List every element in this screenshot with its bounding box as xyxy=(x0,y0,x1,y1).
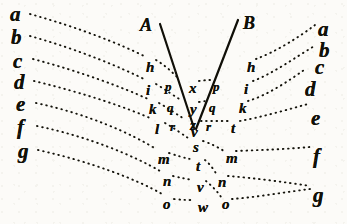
dotted-ray-left-side-0 xyxy=(30,14,146,57)
label-right-column-6: g xyxy=(313,185,324,206)
dotted-ray-right-inner-5 xyxy=(228,176,310,186)
dotted-ray-left-side-1 xyxy=(30,36,146,80)
label-right-mid-1: q xyxy=(209,101,216,114)
label-right-mid-0: p xyxy=(213,80,220,93)
dotted-ray-left-side-4 xyxy=(36,103,156,149)
label-left-inner-6: o xyxy=(163,197,171,212)
label-left-column-3: d xyxy=(14,72,25,93)
ray-A-line xyxy=(160,24,194,128)
label-center-column-7: w xyxy=(198,200,208,215)
dotted-ray-right-inner-6 xyxy=(232,189,310,199)
label-right-column-0: a xyxy=(318,19,329,40)
label-right-inner-6: o xyxy=(222,197,230,212)
label-left-mid-1: q xyxy=(167,101,174,114)
label-left-inner-2: k xyxy=(149,102,157,117)
dotted-ray-right-inner-3 xyxy=(240,104,308,121)
label-right-column-2: c xyxy=(315,57,324,78)
label-left-column-4: e xyxy=(16,94,25,115)
label-center-column-4: s xyxy=(193,140,199,155)
label-left-mid-2: r xyxy=(170,120,175,133)
label-left-column-2: c xyxy=(13,51,22,72)
ray-label-B: B xyxy=(243,14,255,32)
dotted-ray-right-inner-2 xyxy=(248,70,304,101)
label-left-mid-0: p xyxy=(165,80,172,93)
label-left-inner-0: h xyxy=(146,60,154,75)
dotted-ray-left-inner-6 xyxy=(174,199,193,200)
optics-ray-diagram: abcdefgabcdefghiklmnohiktmnopqrpqrxyzvst… xyxy=(0,0,347,224)
label-right-column-5: f xyxy=(313,146,320,167)
label-left-column-6: g xyxy=(18,141,29,162)
label-center-column-0: x xyxy=(189,81,197,96)
label-right-mid-2: r xyxy=(206,120,211,133)
dotted-ray-left-inner-4 xyxy=(169,153,190,159)
label-center-column-5: t xyxy=(196,159,200,174)
label-center-column-3: v xyxy=(191,125,198,140)
label-center-column-6: v xyxy=(197,180,204,195)
label-left-column-1: b xyxy=(11,27,22,48)
dotted-ray-left-side-5 xyxy=(37,126,160,171)
dotted-ray-left-inner-3 xyxy=(165,123,188,138)
label-right-inner-1: i xyxy=(244,82,248,97)
dotted-ray-left-side-6 xyxy=(38,150,162,194)
label-left-inner-3: l xyxy=(155,122,159,137)
label-right-column-4: e xyxy=(311,108,320,129)
dotted-ray-center-right-0 xyxy=(199,80,211,81)
ray-B-line xyxy=(196,20,238,129)
label-left-inner-1: i xyxy=(146,83,150,98)
dotted-ray-center-right-4 xyxy=(205,160,217,175)
label-left-inner-5: n xyxy=(163,174,171,189)
ray-label-A: A xyxy=(140,16,152,34)
dotted-ray-right-inner-0 xyxy=(256,25,315,59)
label-left-inner-4: m xyxy=(158,152,170,167)
dotted-ray-center-right-3 xyxy=(203,141,224,151)
label-right-inner-3: t xyxy=(231,121,235,136)
dotted-ray-left-side-3 xyxy=(34,81,152,119)
label-center-column-1: y xyxy=(190,102,197,117)
dotted-ray-right-inner-1 xyxy=(253,45,316,81)
label-right-inner-0: h xyxy=(247,60,255,75)
label-right-inner-5: n xyxy=(218,175,226,190)
dotted-ray-right-inner-4 xyxy=(236,147,310,151)
label-right-inner-2: k xyxy=(239,101,247,116)
dotted-ray-left-side-2 xyxy=(33,59,148,99)
dotted-ray-left-inner-5 xyxy=(173,176,192,180)
label-left-column-0: a xyxy=(10,4,21,25)
label-left-column-5: f xyxy=(17,117,24,138)
label-right-inner-4: m xyxy=(226,151,238,166)
label-right-column-3: d xyxy=(305,79,316,100)
